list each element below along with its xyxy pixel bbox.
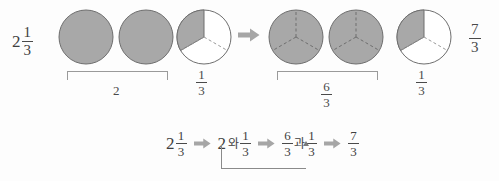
fraction-numerator: 6 (321, 80, 332, 94)
thirds-circle-1 (268, 9, 324, 65)
fraction-denominator: 3 (306, 144, 317, 158)
top-row-arrow-icon (238, 28, 260, 46)
fraction-one-third: 1 3 (196, 68, 207, 97)
fraction-numerator: 1 (240, 129, 251, 143)
mixed-fraction-part: 1 3 (22, 25, 34, 58)
third-circle-right-label: 1 3 (416, 68, 427, 97)
fraction-numerator: 7 (348, 129, 359, 143)
third-circle-left-label: 1 3 (196, 68, 207, 97)
step4-fraction-seven-thirds: 7 3 (348, 129, 359, 158)
bottom-connector-arrowhead (303, 141, 309, 146)
fraction-numerator: 1 (176, 129, 187, 143)
fraction-denominator: 3 (22, 42, 34, 58)
fraction-seven-thirds: 7 3 (469, 22, 481, 55)
third-circle-right (396, 9, 452, 65)
fraction-numerator: 1 (22, 25, 34, 41)
fraction-numerator: 6 (282, 129, 293, 143)
bottom-step-4: 7 3 (348, 129, 359, 158)
right-group-bracket-label: 6 3 (321, 80, 332, 109)
top-right-result: 7 3 (469, 22, 481, 55)
fraction-denominator: 3 (469, 39, 481, 55)
fraction-numerator: 1 (196, 68, 207, 82)
mixed-fraction-part: 1 3 (176, 129, 187, 158)
left-group-bracket-label: 2 (113, 83, 120, 99)
whole-circle-2 (118, 9, 174, 65)
fraction-numerator: 7 (469, 22, 481, 38)
fraction-one-third: 1 3 (416, 68, 427, 97)
top-left-mixed-number: 2 1 3 (12, 25, 33, 58)
fraction-denominator: 3 (196, 83, 207, 97)
third-circle-left (176, 9, 232, 65)
mixed-whole-part: 2 (166, 135, 176, 152)
bottom-step-1: 2 1 3 (166, 129, 187, 158)
mixed-whole-part: 2 (12, 33, 22, 50)
fraction-numerator: 1 (416, 68, 427, 82)
bottom-connector-line (221, 145, 306, 169)
left-group-bracket (67, 71, 168, 80)
fraction-denominator: 3 (416, 83, 427, 97)
fraction-six-thirds: 6 3 (321, 80, 332, 109)
thirds-circle-2 (328, 9, 384, 65)
fraction-denominator: 3 (321, 95, 332, 109)
bottom-arrow-1-icon (194, 135, 211, 153)
fraction-denominator: 3 (348, 144, 359, 158)
bottom-arrow-3-icon (324, 135, 341, 153)
whole-circle-1 (58, 9, 114, 65)
fraction-denominator: 3 (176, 144, 187, 158)
